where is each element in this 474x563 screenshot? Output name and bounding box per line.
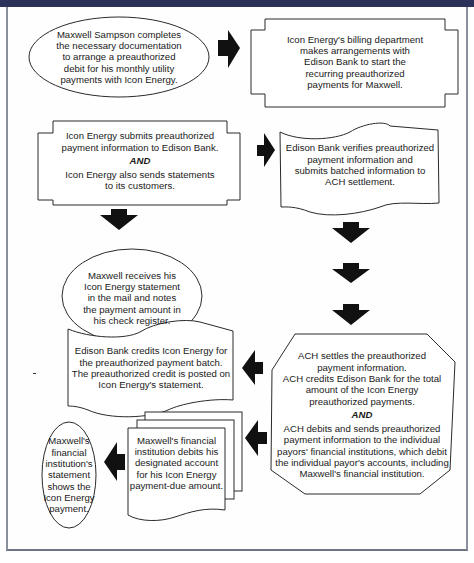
node-text-line: financial: [51, 447, 86, 458]
node-text-line: to arrange a preauthorized: [62, 51, 175, 62]
and-connector-label: AND: [130, 155, 151, 166]
node-text-line: payment information and: [307, 154, 413, 165]
node-text-line: Icon Energy submits preauthorized: [66, 130, 214, 141]
node-n2-text: Icon Energy's billing department makes a…: [265, 30, 445, 94]
node-text-line: in the mail and notes: [88, 292, 177, 303]
node-text-line: shows the: [47, 481, 90, 492]
node-text-line: the individual payor's accounts, includi…: [275, 457, 449, 468]
node-text-line: preauthorized payments.: [309, 396, 415, 407]
node-text-line: Icon Energy also sends statements: [65, 169, 214, 180]
node-n7-text: Edison Bank credits Icon Energy for the …: [68, 343, 234, 393]
node-text-line: payment information to Edison Bank.: [62, 142, 219, 153]
node-text-line: Edison Bank to start the: [304, 56, 406, 67]
node-text-line: recurring preauthorized: [305, 68, 404, 79]
node-n6-text: ACH settles the preauthorized payment in…: [272, 345, 452, 485]
node-text-line: the preauthorized payment batch.: [80, 357, 223, 368]
node-text-line: his check register.: [94, 315, 171, 326]
node-text-line: institution debits his: [135, 446, 219, 457]
node-text-line: submits batched information to: [295, 165, 426, 176]
node-n4-text: Edison Bank verifies preauthorized payme…: [282, 140, 438, 190]
node-text-line: payors' financial institutions, which de…: [277, 446, 447, 457]
node-text-line: ACH credits Edison Bank for the total: [283, 373, 441, 384]
arrow-left-icon: [104, 442, 125, 481]
node-text-line: Icon Energy statement: [84, 281, 180, 292]
node-text-line: Maxwell's financial: [137, 435, 216, 446]
node-text-line: Maxwell's financial institution.: [299, 468, 424, 479]
node-text-line: statement: [48, 469, 90, 480]
node-text-line: ACH settlement.: [325, 176, 395, 187]
node-text-line: payment information to the individual: [284, 434, 440, 445]
node-text-line: the necessary documentation: [56, 40, 181, 51]
node-text-line: designated account: [135, 457, 218, 468]
node-text-line: for his Icon Energy: [137, 469, 217, 480]
node-text-line: Edison Bank credits Icon Energy for: [75, 345, 228, 356]
node-text-line: the payment amount in: [83, 304, 181, 315]
and-connector-label: AND: [352, 409, 373, 420]
node-text-line: Maxwell's: [48, 435, 89, 446]
stray-mark: [33, 373, 36, 374]
node-n1-text: Maxwell Sampson completes the necessary …: [34, 25, 204, 89]
node-text-line: institution's: [45, 458, 92, 469]
node-text-line: payments with Icon Energy.: [60, 74, 177, 85]
arrow-down-icon: [332, 263, 370, 283]
arrow-right-icon: [257, 133, 275, 167]
node-n3-text: Icon Energy submits preauthorized paymen…: [40, 128, 240, 194]
node-text-line: Maxwell receives his: [88, 270, 176, 281]
node-n9-text: Maxwell's financial institution's statem…: [42, 432, 96, 518]
arrow-down-icon: [332, 222, 370, 243]
arrow-left-icon: [242, 350, 263, 385]
node-text-line: payment-due amount.: [130, 480, 223, 491]
node-text-line: ACH settles the preauthorized: [298, 350, 426, 361]
arrow-left-icon: [245, 420, 267, 456]
arrow-down-icon: [100, 209, 138, 230]
arrow-right-icon: [218, 30, 240, 68]
node-n8-text: Maxwell's financial institution debits h…: [128, 432, 225, 494]
node-text-line: The preauthorized credit is posted on: [72, 368, 230, 379]
node-text-line: Maxwell Sampson completes: [57, 29, 181, 40]
node-text-line: payment information.: [317, 362, 407, 373]
node-text-line: amount of the Icon Energy: [306, 384, 419, 395]
arrow-down-icon: [332, 304, 370, 325]
node-text-line: Icon Energy's statement.: [98, 379, 203, 390]
node-text-line: Icon Energy's billing department: [287, 34, 423, 45]
node-text-line: to its customers.: [105, 180, 175, 191]
node-text-line: makes arrangements with: [300, 45, 410, 56]
node-text-line: Edison Bank verifies preauthorized: [286, 142, 434, 153]
node-text-line: payment.: [49, 503, 88, 514]
node-text-line: payments for Maxwell.: [307, 79, 402, 90]
node-n5-text: Maxwell receives his Icon Energy stateme…: [68, 268, 196, 328]
node-text-line: debit for his monthly utility: [64, 63, 174, 74]
node-text-line: ACH debits and sends preauthorized: [284, 423, 441, 434]
node-text-line: Icon Energy: [43, 492, 94, 503]
